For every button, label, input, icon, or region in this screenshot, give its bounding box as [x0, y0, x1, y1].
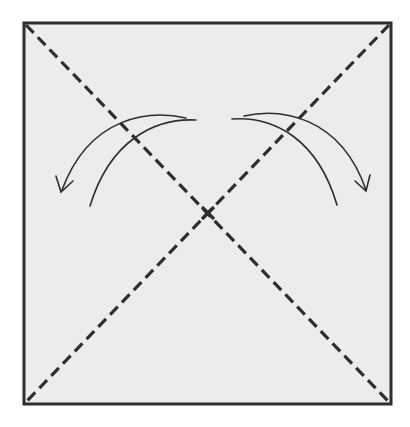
- diagram-canvas: [0, 0, 410, 427]
- origami-diagram: [0, 0, 410, 427]
